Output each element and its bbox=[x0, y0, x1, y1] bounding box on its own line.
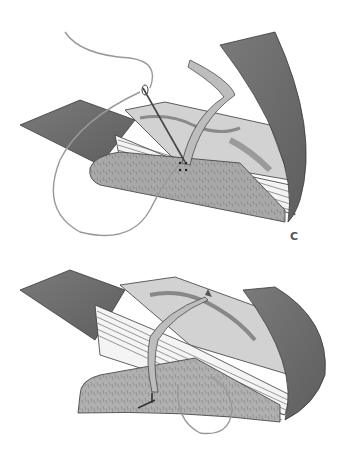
step-d-drawing bbox=[0, 245, 340, 450]
step-label-c: C bbox=[290, 230, 298, 243]
illustration-step-d: D bbox=[0, 245, 340, 450]
illustration-step-c: C bbox=[0, 0, 340, 245]
front-cover-flap bbox=[78, 358, 280, 422]
step-c-drawing bbox=[0, 0, 340, 245]
